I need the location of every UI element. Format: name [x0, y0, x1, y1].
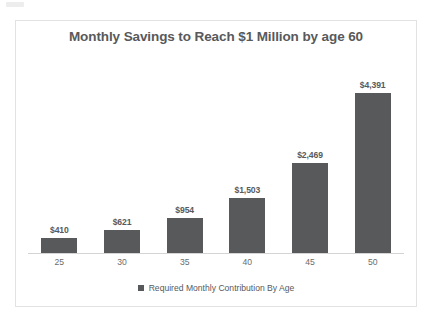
x-axis-line — [28, 253, 404, 254]
bar-value-label: $954 — [175, 205, 194, 215]
x-axis-tick-labels: 25 30 35 40 45 50 — [28, 257, 404, 267]
bar-group: $2,469 — [279, 73, 342, 253]
legend-swatch-icon — [138, 285, 144, 291]
bar-group: $954 — [153, 73, 216, 253]
bar-series: $410 $621 $954 $1,503 $2,469 $4,391 — [28, 73, 404, 253]
bar-group: $410 — [28, 73, 91, 253]
x-tick-label: 50 — [341, 257, 404, 267]
plot-area: $410 $621 $954 $1,503 $2,469 $4,391 — [28, 73, 404, 254]
chart-container: Monthly Savings to Reach $1 Million by a… — [15, 20, 417, 307]
bar[interactable] — [41, 238, 77, 253]
bar-group: $621 — [91, 73, 154, 253]
x-tick-label: 35 — [153, 257, 216, 267]
bar-group: $1,503 — [216, 73, 279, 253]
bar[interactable] — [229, 198, 265, 253]
bar-value-label: $621 — [113, 217, 132, 227]
x-tick-label: 25 — [28, 257, 91, 267]
bar-group: $4,391 — [341, 73, 404, 253]
x-tick-label: 45 — [279, 257, 342, 267]
scan-artifact — [6, 2, 24, 7]
chart-legend: Required Monthly Contribution By Age — [16, 283, 416, 293]
x-tick-label: 40 — [216, 257, 279, 267]
chart-title: Monthly Savings to Reach $1 Million by a… — [16, 29, 416, 44]
bar-value-label: $410 — [50, 225, 69, 235]
bar[interactable] — [104, 230, 140, 253]
bar[interactable] — [167, 218, 203, 253]
x-tick-label: 30 — [91, 257, 154, 267]
bar-value-label: $1,503 — [235, 185, 261, 195]
legend-label[interactable]: Required Monthly Contribution By Age — [149, 283, 295, 293]
bar[interactable] — [355, 93, 391, 253]
bar[interactable] — [292, 163, 328, 253]
bar-value-label: $2,469 — [297, 150, 323, 160]
bar-value-label: $4,391 — [360, 80, 386, 90]
